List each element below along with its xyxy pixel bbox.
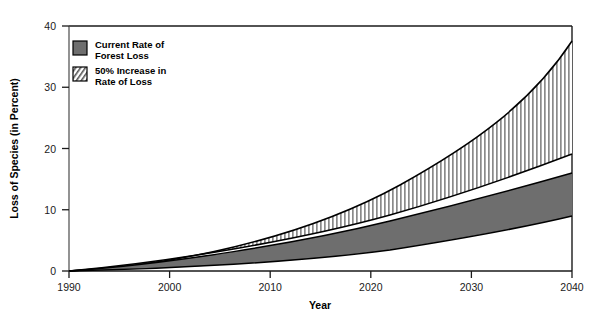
x-tick-label-2010: 2010 [259, 281, 283, 293]
x-tick-label-2030: 2030 [460, 281, 484, 293]
legend-label-current-rate-line2: Forest Loss [95, 50, 149, 61]
legend-label-fifty-increase-line1: 50% Increase in [95, 65, 166, 76]
legend-item-current-rate: Current Rate of Forest Loss [73, 39, 165, 61]
y-tick-label-40: 40 [44, 20, 56, 32]
y-tick-label-10: 10 [44, 204, 56, 216]
y-tick-label-30: 30 [44, 81, 56, 93]
chart-legend: Current Rate of Forest Loss 50% Increase… [73, 39, 166, 87]
y-tick-label-20: 20 [44, 143, 56, 155]
species-loss-area-chart: 40 30 20 10 0 1990 2000 2010 2020 2030 2… [0, 0, 596, 314]
legend-item-fifty-percent-increase: 50% Increase in Rate of Loss [73, 65, 166, 87]
x-axis-title: Year [309, 299, 331, 311]
x-tick-label-1990: 1990 [57, 281, 81, 293]
x-tick-label-2000: 2000 [158, 281, 182, 293]
y-axis-title: Loss of Species (in Percent) [8, 78, 20, 219]
y-axis-ticks [62, 26, 69, 271]
x-axis-ticks [69, 271, 572, 278]
y-tick-label-0: 0 [50, 265, 56, 277]
chart-canvas: 40 30 20 10 0 1990 2000 2010 2020 2030 2… [0, 0, 596, 314]
legend-swatch-hatched-icon [73, 67, 87, 81]
legend-swatch-solid-icon [73, 41, 87, 55]
x-tick-label-2040: 2040 [560, 281, 584, 293]
x-tick-label-2020: 2020 [359, 281, 383, 293]
legend-label-fifty-increase-line2: Rate of Loss [95, 76, 152, 87]
legend-label-current-rate-line1: Current Rate of [95, 39, 165, 50]
